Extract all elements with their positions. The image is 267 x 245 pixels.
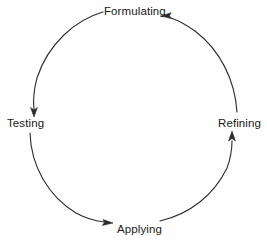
arc-testing-to-applying: [30, 133, 113, 225]
node-label-testing: Testing: [7, 117, 44, 129]
node-label-formulating: Formulating: [104, 5, 166, 17]
arc-applying-to-refining: [160, 131, 235, 221]
node-label-applying: Applying: [117, 223, 162, 235]
arc-path-testing-to-applying: [30, 133, 104, 222]
arc-formulating-to-testing: [31, 12, 103, 117]
page-footer-text: [0, 239, 267, 245]
arrowhead-up-refining: [229, 131, 236, 141]
diagram-canvas: Formulating Refining Applying Testing: [0, 0, 267, 245]
arc-path-formulating-to-testing: [34, 12, 103, 110]
arc-path-refining-to-formulating: [171, 18, 237, 112]
arc-refining-to-formulating: [161, 13, 237, 112]
arc-path-applying-to-refining: [160, 141, 232, 221]
node-label-refining: Refining: [218, 117, 261, 129]
